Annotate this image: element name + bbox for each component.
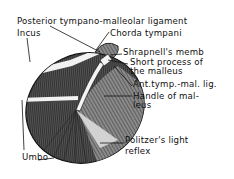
- label-incus: Incus: [17, 29, 41, 38]
- label-posterior-tympano-malleolar-ligament: Posterior tympano-malleolar ligament: [17, 17, 187, 26]
- label-handle-of-malleus-line2: leus: [133, 101, 151, 110]
- tympanic-membrane-diagram: Posterior tympano-malleolar ligament Inc…: [0, 0, 234, 179]
- label-anterior-tympano-malleolar-ligament: Ant.tymp.-mal. lig.: [133, 80, 217, 89]
- label-chorda-tympani: Chorda tympani: [110, 29, 182, 38]
- label-umbo: Umbo: [22, 153, 48, 162]
- label-politzers-light-reflex-line2: reflex: [125, 147, 150, 156]
- label-politzers-light-reflex-line1: Politzer's light: [125, 136, 188, 145]
- label-short-process-line2: the malleus: [130, 67, 183, 76]
- label-shrapnells-membrane: Shrapnell's memb: [123, 48, 204, 57]
